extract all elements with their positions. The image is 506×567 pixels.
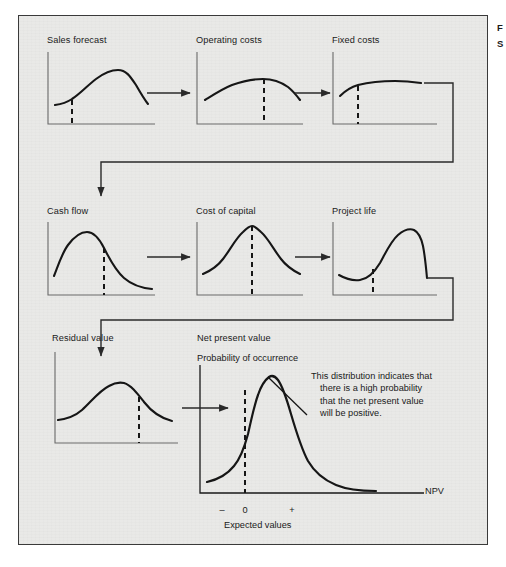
- connector-row1-to-row2: [101, 83, 453, 196]
- figure-root: FS Sales forecast Operating costs Fixed …: [0, 0, 506, 567]
- curve-operating-costs: [205, 79, 300, 100]
- axes-sales-forecast: [48, 52, 155, 124]
- curve-net-present-value: [207, 376, 376, 491]
- axes-operating-costs: [197, 52, 303, 124]
- expected-value-markers: [72, 79, 373, 493]
- flow-arrows: [101, 83, 453, 408]
- axes-project-life: [333, 222, 437, 295]
- chart-axes: [48, 52, 437, 443]
- connector-row2-to-row3: [101, 278, 453, 356]
- curve-project-life: [339, 229, 427, 280]
- axes-net-present-value: [200, 365, 424, 493]
- curve-fixed-costs: [340, 81, 421, 96]
- axes-cash-flow: [48, 222, 155, 295]
- curve-residual-value: [58, 383, 172, 421]
- axes-residual-value: [55, 352, 178, 443]
- axes-cost-of-capital: [197, 222, 303, 295]
- distribution-curves: [54, 70, 427, 491]
- diagram-graphics: [0, 0, 506, 567]
- annotation-leader-line: [268, 377, 307, 415]
- curve-sales-forecast: [55, 70, 148, 105]
